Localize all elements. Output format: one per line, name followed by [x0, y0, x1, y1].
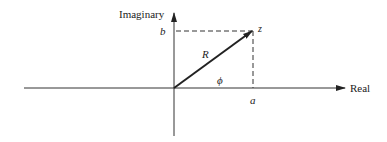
real-axis-label: Real	[350, 82, 370, 94]
a-label: a	[250, 94, 256, 106]
r-label: R	[201, 48, 209, 60]
phi-label: ϕ	[217, 74, 223, 86]
b-label: b	[160, 25, 166, 37]
z-label: z	[257, 23, 262, 34]
vector-r	[174, 31, 252, 88]
imaginary-axis-label: Imaginary	[119, 8, 165, 20]
complex-plane-diagram: Imaginary Real b a z R ϕ	[0, 0, 387, 142]
